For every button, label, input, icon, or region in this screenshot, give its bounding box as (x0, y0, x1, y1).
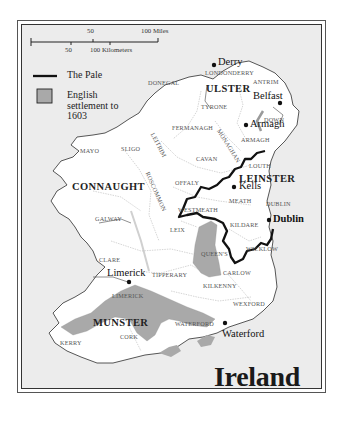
scale-label-100-km: 100 Kilometers (90, 47, 132, 54)
town-derry: Derry (218, 57, 243, 68)
county-offaly: OFFALY (175, 180, 199, 186)
county-westmeath: WESTMEATH (178, 207, 218, 213)
county-wexford: WEXFORD (233, 301, 265, 307)
county-antrim: ANTRIM (253, 79, 279, 85)
province-ulster: ULSTER (206, 84, 250, 95)
legend-line-3: 1603 (67, 111, 118, 122)
province-munster: MUNSTER (93, 318, 148, 329)
legend-label-english-settlement: English settlement to 1603 (67, 90, 118, 122)
county-tipperary: TIPPERARY (152, 272, 187, 278)
county-kerry: KERRY (60, 340, 82, 346)
county-tyrone: TYRONE (201, 104, 227, 110)
county-londonderry: LONDONDERRY (205, 70, 254, 76)
scale-bar (31, 38, 158, 46)
county-waterford: WATERFORD (175, 321, 214, 327)
scale-label-50-miles: 50 (87, 28, 94, 35)
county-clare: CLARE (99, 257, 120, 263)
county-limerick: LIMERICK (112, 293, 144, 299)
county-fermanagh: FERMANAGH (172, 125, 213, 131)
province-connaught: CONNAUGHT (72, 182, 145, 193)
scale-label-100-miles: 100 Miles (141, 28, 168, 35)
scale-label-50-km: 50 (65, 47, 72, 54)
county-cork: CORK (120, 334, 138, 340)
county-mayo: MAYO (80, 148, 99, 154)
county-armagh: ARMAGH (241, 137, 270, 143)
legend-label-the-pale: The Pale (67, 70, 102, 81)
county-cavan: CAVAN (196, 156, 217, 162)
county-wicklow: WICKLOW (246, 246, 278, 252)
town-kells: Kells (239, 181, 261, 192)
county-queens: QUEEN'S (201, 251, 228, 257)
town-dublin: Dublin (273, 214, 304, 225)
county-carlow: CARLOW (223, 270, 251, 276)
settlement-swatch-icon (37, 89, 52, 103)
map-title: Ireland (214, 363, 300, 391)
town-waterford: Waterford (222, 329, 264, 340)
county-dublin: DUBLIN (266, 201, 291, 207)
town-armagh: Armagh (250, 119, 284, 130)
legend-line-1: English (67, 90, 118, 101)
county-sligo: SLIGO (121, 146, 140, 152)
town-belfast: Belfast (253, 91, 283, 102)
town-limerick: Limerick (107, 268, 145, 279)
county-galway: GALWAY (95, 216, 122, 222)
county-leix: LEIX (170, 227, 185, 233)
county-kildare: KILDARE (230, 222, 259, 228)
county-meath: MEATH (229, 198, 251, 204)
county-kilkenny: KILKENNY (203, 283, 237, 289)
county-louth: LOUTH (249, 163, 271, 169)
county-donegal: DONEGAL (148, 80, 179, 86)
